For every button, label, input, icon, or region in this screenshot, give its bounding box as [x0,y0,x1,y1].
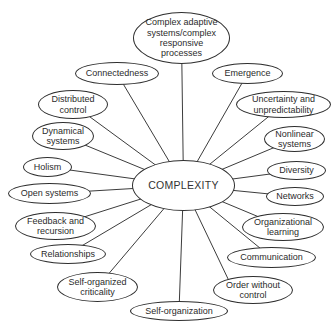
node-organizational-learning: Organizational learning [242,213,324,241]
node-distributed-control: Distributed control [38,90,108,119]
node-self-organized-criticality: Self-organized criticality [57,272,138,302]
node-complexity-center: COMPLEXITY [132,160,235,211]
complexity-concept-map: COMPLEXITY Complex adaptive systems/comp… [0,0,336,330]
node-complex-adaptive-systems: Complex adaptive systems/complex respons… [133,12,230,64]
node-holism: Holism [23,157,72,177]
node-relationships: Relationships [30,244,106,264]
node-order-without-control: Order without control [213,276,293,304]
node-connectedness: Connectedness [75,62,159,85]
node-dynamical-systems: Dynamical systems [32,122,94,150]
node-emergence: Emergence [212,63,283,84]
node-feedback-and-recursion: Feedback and recursion [15,212,96,240]
node-nonlinear-systems: Nonlinear systems [264,126,325,152]
node-uncertainty-and-unpredictability: Uncertainty and unpredictability [236,91,331,118]
node-diversity: Diversity [267,161,326,180]
node-networks: Networks [266,187,324,206]
node-communication: Communication [227,247,316,268]
node-self-organization: Self-organization [130,301,228,321]
node-open-systems: Open systems [8,183,91,204]
